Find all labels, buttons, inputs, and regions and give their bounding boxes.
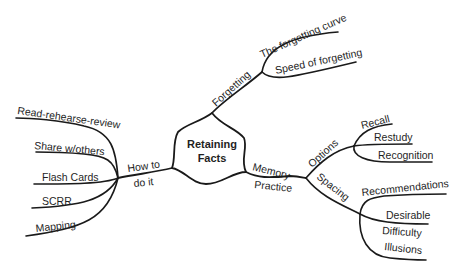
leaf-difficulty: Difficulty <box>382 224 423 239</box>
memory-practice-label-line2: Practice <box>254 178 293 194</box>
leaf-illusions: Illusions <box>384 240 423 256</box>
central-node-title-line2: Facts <box>198 152 227 164</box>
leaf-desirable: Desirable <box>386 209 431 221</box>
leaf-mapping: Mapping <box>35 218 76 234</box>
mind-map-diagram: Retaining Facts Forgetting The forgettin… <box>0 0 457 274</box>
leaf-restudy: Restudy <box>374 131 413 143</box>
leaf-share-with-others: Share w/others <box>34 139 105 157</box>
how-to-label-line2: do it <box>133 175 154 189</box>
forgetting-label: Forgetting <box>209 68 252 109</box>
central-node: Retaining Facts <box>172 113 246 184</box>
central-node-title-line1: Retaining <box>187 138 237 150</box>
restudy-connector <box>354 144 412 146</box>
leaf-read-rehearse-review: Read-rehearse-review <box>17 104 122 130</box>
leaf-scrr: SCRR <box>42 195 72 207</box>
spacing-label: Spacing <box>315 170 352 203</box>
branch-memory-practice: Memory Practice Options Recall Restudy R… <box>246 112 449 260</box>
leaf-flash-cards: Flash Cards <box>42 171 99 183</box>
branch-how-to-do-it: How to do it Read-rehearse-review Share … <box>16 104 172 236</box>
branch-forgetting: Forgetting The forgetting curve Speed of… <box>209 11 363 113</box>
leaf-recognition: Recognition <box>378 149 434 161</box>
